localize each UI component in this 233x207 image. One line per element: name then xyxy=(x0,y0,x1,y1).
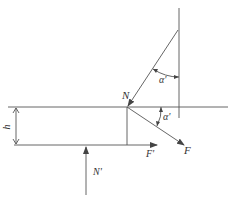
force-diagram: N F F' N' h α' α' xyxy=(0,0,233,207)
f-force-arrow xyxy=(127,107,184,145)
diagram-lines xyxy=(0,0,233,207)
label-f: F xyxy=(184,145,191,156)
label-h: h xyxy=(2,125,12,130)
label-alpha-lower: α' xyxy=(163,112,170,122)
n-force-arrow xyxy=(128,30,178,106)
label-n: N xyxy=(122,90,129,101)
label-f-prime: F' xyxy=(146,149,154,159)
label-alpha-upper: α' xyxy=(159,75,166,85)
label-n-prime: N' xyxy=(93,167,102,177)
